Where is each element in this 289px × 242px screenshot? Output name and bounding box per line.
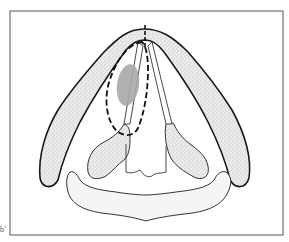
left-arytenoid [88, 124, 130, 179]
thyroid-cartilage [40, 29, 250, 187]
figure-label: b1 [0, 224, 7, 234]
right-arytenoid [165, 123, 208, 179]
cricoid-cartilage [67, 172, 231, 221]
glottic-airway [126, 144, 166, 177]
larynx-diagram [0, 0, 289, 242]
